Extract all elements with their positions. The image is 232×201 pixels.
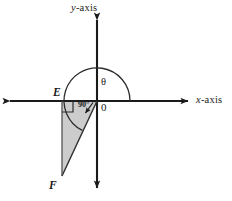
- point-label-F: F: [49, 180, 57, 192]
- point-label-E: E: [53, 87, 61, 99]
- geometry-diagram: y-axis x-axis E F 0 θ 90°: [0, 0, 232, 201]
- y-axis-label: y-axis: [71, 3, 97, 14]
- angle-label-theta: θ: [101, 77, 106, 88]
- x-axis-label: x-axis: [196, 95, 222, 106]
- x-axis-label-suffix: -axis: [201, 94, 222, 105]
- y-axis-label-suffix: -axis: [76, 2, 97, 13]
- origin-label: 0: [101, 102, 107, 113]
- angle-label-right: 90°: [78, 101, 89, 109]
